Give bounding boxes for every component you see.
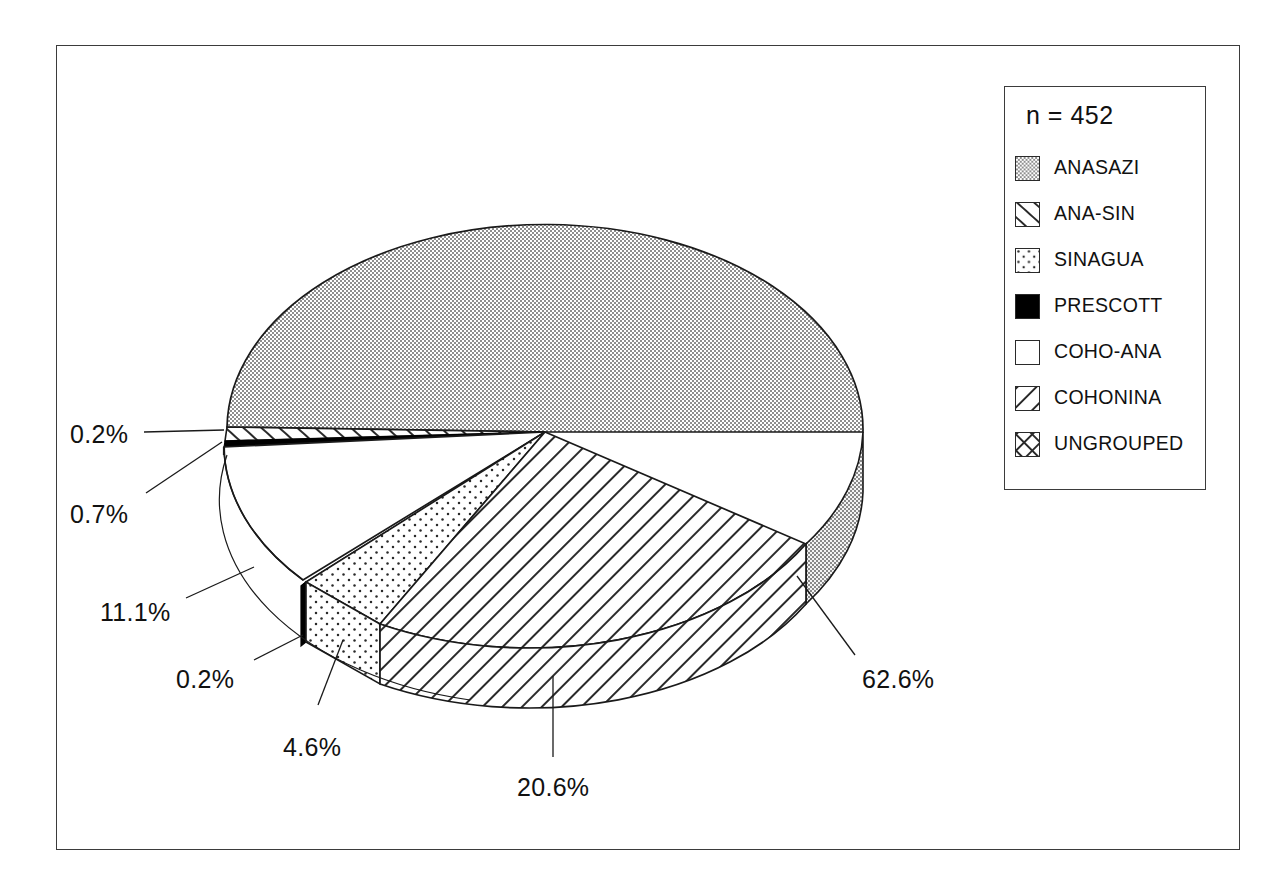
forward-hatch-swatch-icon (1015, 202, 1040, 227)
legend-items: ANASAZI ANA-SIN SINAGUA PRESCOTT COHO-AN… (1015, 153, 1205, 475)
sparse-dot-swatch-icon (1015, 248, 1040, 273)
callout-coho-ana: 11.1% (100, 598, 171, 627)
crosshatch-swatch-icon (1015, 432, 1040, 457)
callout-sinagua: 4.6% (283, 733, 341, 762)
callout-prescott: 0.2% (70, 420, 128, 449)
legend-label-coho-ana: COHO-ANA (1054, 342, 1162, 362)
leader-ungrouped (254, 635, 303, 660)
legend-label-sinagua: SINAGUA (1054, 250, 1144, 270)
callout-ana-sin: 0.7% (70, 500, 128, 529)
legend-label-prescott: PRESCOTT (1054, 296, 1163, 316)
leader-ana-sin (146, 442, 222, 493)
legend-label-anasazi: ANASAZI (1054, 158, 1140, 178)
leader-anasazi (797, 576, 855, 655)
blank-white-swatch-icon (1015, 340, 1040, 365)
callout-ungrouped: 0.2% (176, 665, 234, 694)
figure-canvas: 0.2% 0.7% 11.1% 0.2% 4.6% 20.6% 62.6% n … (0, 0, 1283, 888)
legend-label-ana-sin: ANA-SIN (1054, 204, 1135, 224)
solid-black-swatch-icon (1015, 294, 1040, 319)
legend-item-sinagua[interactable]: SINAGUA (1015, 245, 1205, 275)
back-hatch-swatch-icon (1015, 386, 1040, 411)
legend-item-ana-sin[interactable]: ANA-SIN (1015, 199, 1205, 229)
legend-item-anasazi[interactable]: ANASAZI (1015, 153, 1205, 183)
leader-coho-ana (186, 567, 254, 598)
callout-anasazi: 62.6% (862, 665, 934, 694)
legend-sample-size: n = 452 (1026, 101, 1114, 130)
slice-side-anasazi (806, 432, 863, 604)
leader-prescott (144, 430, 224, 432)
pie-body (219, 224, 863, 708)
legend-item-ungrouped[interactable]: UNGROUPED (1015, 429, 1205, 459)
dense-dot-gray-swatch-icon (1015, 156, 1040, 181)
legend-label-cohonina: COHONINA (1054, 388, 1162, 408)
legend-item-prescott[interactable]: PRESCOTT (1015, 291, 1205, 321)
callout-cohonina: 20.6% (517, 773, 589, 802)
legend-label-ungrouped: UNGROUPED (1054, 434, 1183, 454)
legend-item-cohonina[interactable]: COHONINA (1015, 383, 1205, 413)
slice-top-anasazi (227, 224, 863, 432)
legend-item-coho-ana[interactable]: COHO-ANA (1015, 337, 1205, 367)
